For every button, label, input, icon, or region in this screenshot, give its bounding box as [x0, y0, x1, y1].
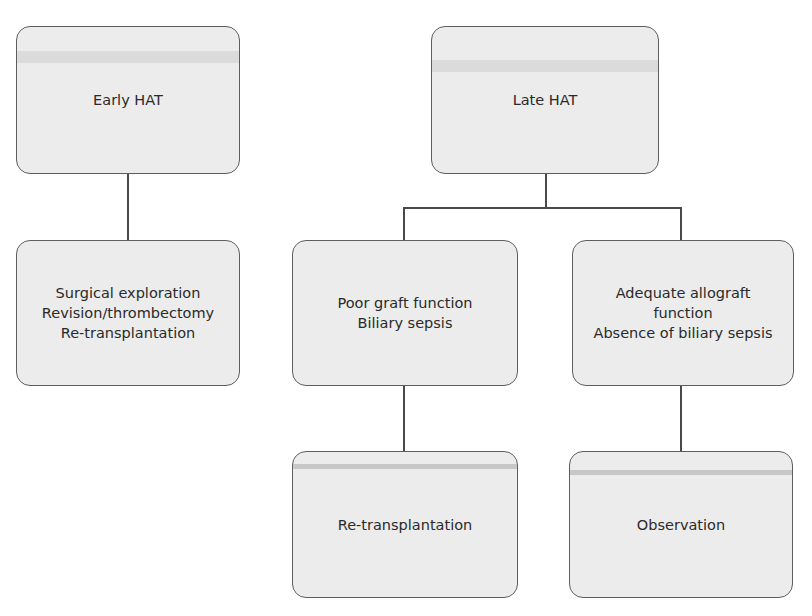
connector-poor-to-retransplant: [403, 385, 405, 451]
node-late-poor-line-2: Biliary sepsis: [338, 313, 473, 333]
node-late-hat-label: Late HAT: [513, 90, 578, 110]
node-late-hat: Late HAT: [431, 26, 659, 174]
connector-branch-to-adequate: [680, 207, 682, 240]
node-early-action-line-2: Revision/thrombectomy: [42, 303, 214, 323]
node-late-poor-line-1: Poor graft function: [338, 293, 473, 313]
node-late-adequate-action-label: Observation: [637, 515, 725, 535]
node-early-action-line-1: Surgical exploration: [42, 283, 214, 303]
node-late-adequate-action: Observation: [569, 451, 793, 598]
connector-adequate-to-observation: [680, 385, 682, 451]
node-early-action: Surgical exploration Revision/thrombecto…: [16, 240, 240, 386]
connector-late-hat-branch: [403, 207, 682, 209]
node-late-poor: Poor graft function Biliary sepsis: [292, 240, 518, 386]
node-late-poor-action-label: Re-transplantation: [338, 515, 473, 535]
node-early-hat-label: Early HAT: [93, 90, 163, 110]
node-early-action-line-3: Re-transplantation: [42, 323, 214, 343]
node-early-hat: Early HAT: [16, 26, 240, 174]
node-late-adequate: Adequate allograft function Absence of b…: [572, 240, 794, 386]
connector-early-hat-to-action: [127, 173, 129, 240]
connector-branch-to-poor: [403, 207, 405, 240]
node-late-adequate-line-1: Adequate allograft: [593, 283, 772, 303]
connector-late-hat-down: [545, 173, 547, 209]
node-late-adequate-line-3: Absence of biliary sepsis: [593, 323, 772, 343]
node-late-adequate-line-2: function: [593, 303, 772, 323]
node-late-poor-action: Re-transplantation: [292, 451, 518, 598]
